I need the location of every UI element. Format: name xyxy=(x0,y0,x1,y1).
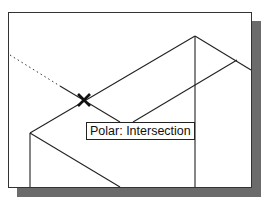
cad-drawing xyxy=(0,0,269,203)
edge-inner-slope xyxy=(133,60,237,122)
edge-main-slope xyxy=(30,36,195,133)
edge-lower-diagonal xyxy=(30,133,120,187)
edge-right-slope xyxy=(195,36,251,70)
edge-cross-segment xyxy=(60,86,120,122)
polar-tracking-line xyxy=(10,55,60,86)
intersection-x-marker-icon xyxy=(78,94,90,106)
snap-tooltip: Polar: Intersection xyxy=(86,122,195,140)
